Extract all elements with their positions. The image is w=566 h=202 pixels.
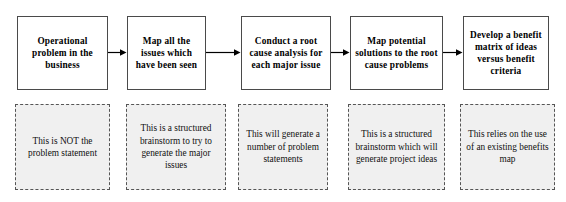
process-note-3[interactable]: This will generate a number of problem s… — [238, 104, 328, 190]
process-note-1[interactable]: This is NOT the problem statement — [15, 104, 110, 190]
process-note-4-label: This is a structured brainstorm which wi… — [352, 128, 441, 165]
process-step-4[interactable]: Map potential solutions to the root caus… — [350, 16, 443, 90]
process-step-4-label: Map potential solutions to the root caus… — [355, 35, 438, 72]
process-note-2[interactable]: This is a structured brainstorm to try t… — [126, 104, 226, 190]
process-step-2-label: Map all the issues which have been seen — [132, 35, 201, 72]
process-step-3[interactable]: Conduct a root cause analysis for each m… — [241, 16, 331, 90]
process-step-5-label: Develop a benefit matrix of ideas versus… — [468, 29, 544, 78]
arrow-right-icon-4 — [443, 47, 463, 58]
process-note-5-label: This relies on the use of an existing be… — [464, 128, 551, 165]
process-note-2-label: This is a structured brainstorm to try t… — [130, 122, 222, 172]
process-step-3-label: Conduct a root cause analysis for each m… — [246, 35, 326, 72]
process-note-3-label: This will generate a number of problem s… — [242, 128, 324, 165]
arrow-right-icon-2 — [206, 47, 241, 58]
process-flow-diagram: Operational problem in the business Map … — [0, 0, 566, 202]
process-step-1-label: Operational problem in the business — [22, 35, 103, 72]
process-note-5[interactable]: This relies on the use of an existing be… — [460, 104, 555, 190]
process-step-5[interactable]: Develop a benefit matrix of ideas versus… — [463, 16, 549, 90]
process-note-4[interactable]: This is a structured brainstorm which wi… — [348, 104, 445, 190]
process-step-1[interactable]: Operational problem in the business — [17, 16, 108, 90]
process-note-1-label: This is NOT the problem statement — [19, 135, 106, 160]
process-step-2[interactable]: Map all the issues which have been seen — [127, 16, 206, 90]
arrow-right-icon-1 — [108, 47, 127, 58]
arrow-right-icon-3 — [331, 47, 350, 58]
